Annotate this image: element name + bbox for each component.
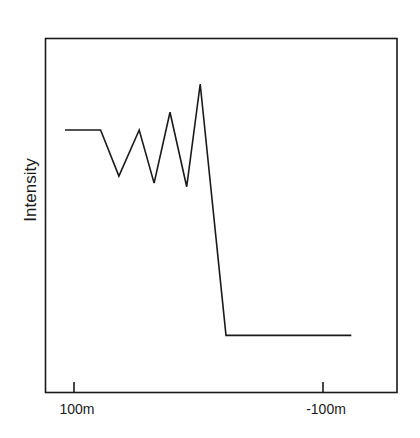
x-axis-ticks	[74, 382, 323, 392]
intensity-line	[65, 84, 351, 335]
y-axis-label: Intensity	[21, 158, 40, 222]
line-chart: 100m-100m Intensity	[0, 0, 420, 438]
x-tick-label: -100m	[306, 401, 346, 417]
x-tick-label: 100m	[59, 401, 94, 417]
plot-frame	[46, 39, 398, 393]
x-axis-tick-labels: 100m-100m	[59, 401, 345, 417]
